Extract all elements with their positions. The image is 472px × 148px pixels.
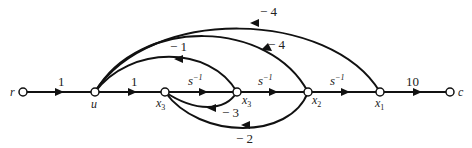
edge-x1-u	[95, 29, 380, 92]
gain-u-x3a: 1	[131, 74, 138, 89]
gain-x2-u: − 4	[268, 37, 286, 52]
gain-x3b-u: − 1	[170, 39, 187, 54]
node-x2	[304, 88, 312, 96]
edge-x3b-u	[95, 57, 237, 92]
node-x1	[376, 88, 384, 96]
gain-x1-u: − 4	[260, 4, 278, 19]
node-x3b	[233, 88, 241, 96]
arrow-icon	[269, 88, 278, 96]
gain-x3b-x3a: − 3	[222, 105, 239, 120]
arrow-icon	[128, 88, 137, 96]
arrow-icon	[207, 104, 216, 112]
gain-x1-c: 10	[406, 74, 419, 89]
arrow-icon	[250, 19, 259, 27]
node-label-x2: x2	[311, 93, 321, 109]
node-label-r: r	[10, 85, 15, 99]
gain-x2-x1: s−1	[330, 73, 344, 88]
node-label-x3a: x3	[155, 96, 165, 112]
node-label-x1: x1	[374, 96, 384, 112]
signal-flow-graph: r u x3 x3 x2 x1 c 1 1 s−1 s−1 s−1 10 − 1…	[0, 0, 472, 148]
arrow-icon	[199, 88, 208, 96]
gain-x2-x3a: − 2	[236, 131, 253, 146]
node-label-u: u	[91, 97, 97, 111]
node-label-x3b: x3	[241, 93, 251, 109]
node-label-c: c	[458, 85, 464, 99]
arrow-icon	[341, 88, 350, 96]
arrow-icon	[55, 88, 64, 96]
node-c	[446, 88, 454, 96]
gain-x3a-x3b: s−1	[188, 73, 202, 88]
gain-x3b-x2: s−1	[258, 73, 272, 88]
node-u	[91, 88, 99, 96]
node-r	[19, 88, 27, 96]
arrow-icon	[413, 88, 422, 96]
gain-r-u: 1	[58, 74, 65, 89]
node-x3a	[161, 88, 169, 96]
